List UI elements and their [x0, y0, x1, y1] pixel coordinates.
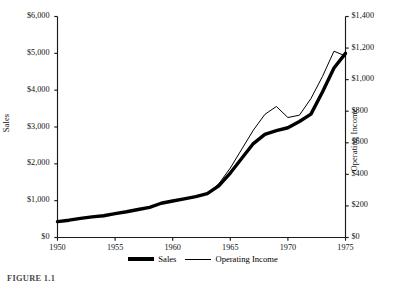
chart-legend: Sales Operating Income [0, 254, 406, 264]
thin-line-swatch-icon [185, 259, 211, 260]
thick-line-swatch-icon [128, 257, 154, 260]
figure-container: Sales Operating Income $0$1,000$2,000$3,… [0, 0, 406, 284]
legend-item-sales: Sales [128, 254, 176, 264]
plot-area [0, 0, 406, 284]
data-series-group [58, 51, 346, 221]
legend-label-operating-income: Operating Income [215, 254, 277, 264]
series-line-sales [58, 53, 346, 221]
legend-item-operating-income: Operating Income [185, 254, 277, 264]
legend-label-sales: Sales [158, 254, 176, 264]
figure-caption: FIGURE 1.1 [7, 274, 55, 283]
axes-group [54, 17, 348, 241]
